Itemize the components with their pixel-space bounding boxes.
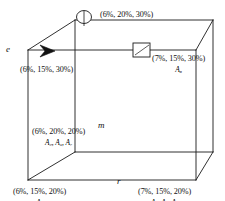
vertex-triple: (7%, 15%, 20%) — [138, 187, 191, 196]
vertex-label-bottom-right: (7%, 15%, 20%) A₂, A₄, A₆ — [138, 180, 191, 201]
vertex-alts: A₂, A₃, A₇ — [32, 138, 85, 147]
depth-edge-top-right — [196, 20, 213, 50]
vertex-label-top-back: (6%, 20%, 30%) — [100, 3, 153, 21]
vertex-alts: A₈ — [152, 65, 205, 74]
m-axis-label: m — [98, 120, 105, 130]
depth-edge-top-left — [28, 20, 75, 50]
vertex-triple: (6%, 15%, 20%) — [13, 187, 66, 196]
vertex-label-top-right: (7%, 15%, 30%) A₈ — [152, 47, 205, 74]
cube-geometry — [0, 0, 225, 201]
vertex-label-mid-back: (6%, 20%, 20%) A₂, A₃, A₇ — [32, 120, 85, 147]
vertex-triple: (6%, 15%, 30%) — [20, 65, 73, 74]
arrowhead-icon — [40, 45, 55, 57]
square-marker-icon — [133, 43, 150, 57]
figure-canvas: e m r (6%, 20%, 30%) (6%, 15%, 30%) (7%,… — [0, 0, 225, 201]
r-axis-label: r — [117, 176, 121, 186]
vertex-label-bottom-left: (6%, 15%, 20%) A₁ — [13, 180, 66, 201]
vertex-triple: (6%, 20%, 30%) — [100, 10, 153, 19]
vertex-triple: (6%, 20%, 20%) — [32, 127, 85, 136]
depth-edge-bottom-left — [28, 152, 75, 180]
vertex-alts: A₁ — [13, 198, 66, 201]
vertex-triple: (7%, 15%, 30%) — [152, 54, 205, 63]
vertex-alts: A₂, A₄, A₆ — [138, 198, 191, 201]
vertex-label-top-left-front: (6%, 15%, 30%) — [20, 58, 73, 76]
e-axis-label: e — [6, 44, 10, 54]
circle-marker-icon — [77, 11, 92, 27]
depth-edge-bottom-right — [196, 152, 213, 180]
